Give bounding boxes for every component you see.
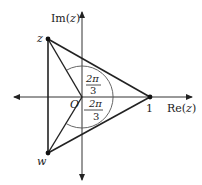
label-one: 1 xyxy=(146,102,153,115)
label-origin: O xyxy=(70,98,79,111)
triangle xyxy=(48,39,150,153)
label-z: z xyxy=(36,32,43,45)
angle-label-lower: 2π 3 xyxy=(84,98,103,122)
point-z xyxy=(46,37,51,42)
real-axis-label: Re(z) xyxy=(167,102,196,115)
svg-text:3: 3 xyxy=(93,111,99,122)
label-w: w xyxy=(37,155,47,168)
svg-text:2π: 2π xyxy=(85,73,99,84)
point-one xyxy=(148,95,153,100)
complex-plane-diagram: z w 1 O Im(z) Re(z) 2π 3 2π 3 xyxy=(0,0,202,185)
angle-label-upper: 2π 3 xyxy=(85,73,101,96)
svg-text:2π: 2π xyxy=(88,98,102,109)
ray-origin-z xyxy=(48,39,82,97)
imag-axis-label: Im(z) xyxy=(51,12,80,25)
svg-text:3: 3 xyxy=(90,85,96,96)
